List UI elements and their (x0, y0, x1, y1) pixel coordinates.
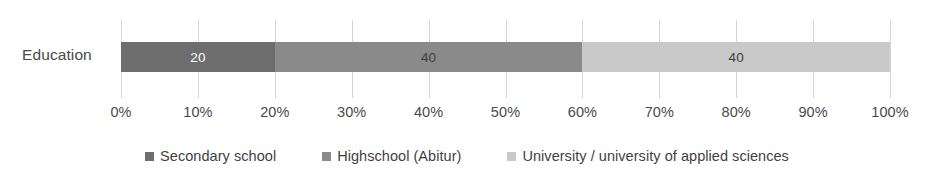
x-tick-label-40%: 40% (414, 104, 443, 120)
legend-swatch-icon-0 (145, 152, 154, 161)
x-tick-label-80%: 80% (722, 104, 751, 120)
x-tick-label-50%: 50% (491, 104, 520, 120)
legend-item-1[interactable]: Highschool (Abitur) (322, 148, 461, 164)
x-tick-label-70%: 70% (645, 104, 674, 120)
bar-segment-0: 20 (121, 42, 275, 72)
category-label-education: Education (22, 46, 114, 64)
bar-segment-1: 40 (275, 42, 583, 72)
legend-label-0: Secondary school (160, 148, 276, 164)
x-tick-label-20%: 20% (260, 104, 289, 120)
legend-swatch-icon-2 (507, 152, 516, 161)
legend-swatch-icon-1 (322, 152, 331, 161)
legend-label-2: University / university of applied scien… (522, 148, 788, 164)
stacked-bar-chart: Education 204040 0%10%20%30%40%50%60%70%… (0, 0, 934, 185)
x-tick-label-90%: 90% (798, 104, 827, 120)
x-tick-label-100%: 100% (871, 104, 909, 120)
x-tick-label-0%: 0% (110, 104, 131, 120)
x-tick-label-30%: 30% (337, 104, 366, 120)
legend-label-1: Highschool (Abitur) (337, 148, 461, 164)
x-tick-label-10%: 10% (183, 104, 212, 120)
bar-education: 204040 (121, 42, 890, 72)
x-axis: 0%10%20%30%40%50%60%70%80%90%100% (121, 104, 890, 126)
legend-item-0[interactable]: Secondary school (145, 148, 276, 164)
bar-segment-2: 40 (582, 42, 890, 72)
chart-legend: Secondary schoolHighschool (Abitur)Unive… (0, 148, 934, 164)
legend-item-2[interactable]: University / university of applied scien… (507, 148, 788, 164)
x-tick-label-60%: 60% (568, 104, 597, 120)
gridline-100% (890, 20, 891, 98)
